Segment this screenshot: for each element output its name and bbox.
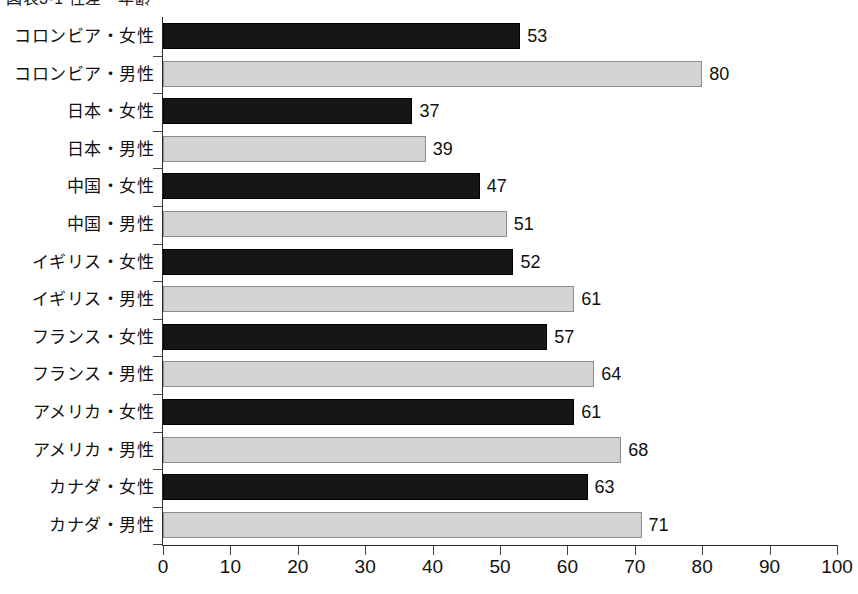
bar-row: フランス・男性64 [0, 356, 858, 394]
x-axis-tick [365, 546, 366, 555]
x-axis-tick-label: 20 [268, 556, 328, 578]
x-axis-tick-label: 40 [403, 556, 463, 578]
bar-value-label: 57 [554, 324, 574, 350]
category-label: 中国・女性 [0, 168, 154, 206]
category-label: カナダ・男性 [0, 507, 154, 545]
category-label: カナダ・女性 [0, 469, 154, 507]
category-label: フランス・女性 [0, 319, 154, 357]
bar [163, 324, 547, 350]
bar-row: カナダ・男性71 [0, 507, 858, 545]
bar [163, 512, 642, 538]
x-axis-tick [433, 546, 434, 555]
bar [163, 211, 507, 237]
bar-value-label: 53 [527, 23, 547, 49]
bar-row: 日本・女性37 [0, 93, 858, 131]
category-label: アメリカ・女性 [0, 394, 154, 432]
x-axis-tick-label: 30 [335, 556, 395, 578]
x-axis-tick-label: 70 [605, 556, 665, 578]
bar-row: コロンビア・女性53 [0, 18, 858, 56]
bar-row: コロンビア・男性80 [0, 56, 858, 94]
x-axis-tick [702, 546, 703, 555]
bar-row: カナダ・女性63 [0, 469, 858, 507]
bar-chart-figure: 図表3-1 性差・年齢 コロンビア・女性53コロンビア・男性80日本・女性37日… [0, 0, 858, 594]
bar [163, 136, 426, 162]
x-axis-tick [770, 546, 771, 555]
bar [163, 173, 480, 199]
bar [163, 249, 513, 275]
x-axis-tick-label: 50 [470, 556, 530, 578]
bar-row: イギリス・女性52 [0, 244, 858, 282]
bar-row: アメリカ・女性61 [0, 394, 858, 432]
x-axis-tick [298, 546, 299, 555]
category-label: フランス・男性 [0, 356, 154, 394]
bar-value-label: 64 [601, 361, 621, 387]
x-axis-tick [500, 546, 501, 555]
bar-row: 中国・女性47 [0, 168, 858, 206]
category-label: イギリス・女性 [0, 244, 154, 282]
bar [163, 98, 412, 124]
x-axis-tick-label: 80 [672, 556, 732, 578]
bar-value-label: 63 [595, 474, 615, 500]
category-label: 日本・男性 [0, 131, 154, 169]
bar-value-label: 61 [581, 286, 601, 312]
bar-value-label: 80 [709, 61, 729, 87]
x-axis-tick-label: 60 [537, 556, 597, 578]
bar-row: 中国・男性51 [0, 206, 858, 244]
y-axis-tick [153, 544, 162, 545]
bar-value-label: 52 [520, 249, 540, 275]
category-label: 日本・女性 [0, 93, 154, 131]
category-label: アメリカ・男性 [0, 432, 154, 470]
x-axis-tick-label: 90 [740, 556, 800, 578]
category-label: イギリス・男性 [0, 281, 154, 319]
bar [163, 361, 594, 387]
bar-row: フランス・女性57 [0, 319, 858, 357]
bar-value-label: 61 [581, 399, 601, 425]
x-axis-tick [230, 546, 231, 555]
x-axis-tick [837, 546, 838, 555]
bar-value-label: 71 [649, 512, 669, 538]
bar-value-label: 39 [433, 136, 453, 162]
category-label: 中国・男性 [0, 206, 154, 244]
bar [163, 399, 574, 425]
x-axis-tick [567, 546, 568, 555]
category-label: コロンビア・男性 [0, 56, 154, 94]
x-axis-tick-label: 10 [200, 556, 260, 578]
bar-row: 日本・男性39 [0, 131, 858, 169]
x-axis-tick [163, 546, 164, 555]
bar-value-label: 47 [487, 173, 507, 199]
x-axis-tick-label: 0 [133, 556, 193, 578]
bar-value-label: 37 [419, 98, 439, 124]
bar [163, 286, 574, 312]
chart-title: 図表3-1 性差・年齢 [6, 0, 151, 9]
x-axis-tick-label: 100 [807, 556, 858, 578]
x-axis-tick [635, 546, 636, 555]
bar-value-label: 51 [514, 211, 534, 237]
bar-row: イギリス・男性61 [0, 281, 858, 319]
bar-row: アメリカ・男性68 [0, 432, 858, 470]
bar [163, 61, 702, 87]
bar [163, 474, 588, 500]
bar-value-label: 68 [628, 437, 648, 463]
category-label: コロンビア・女性 [0, 18, 154, 56]
bar [163, 437, 621, 463]
bar [163, 23, 520, 49]
